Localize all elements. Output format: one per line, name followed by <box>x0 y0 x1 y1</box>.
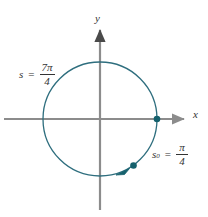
arc-reference-denominator: 4 <box>177 155 187 167</box>
y-axis-label: y <box>95 12 100 24</box>
unit-circle-figure: s = 7π 4 s 0 = π 4 y x <box>0 0 208 217</box>
arc-direction-arrowhead <box>116 169 130 176</box>
arc-total-equals: = <box>28 69 34 80</box>
arc-reference-numerator: π <box>177 142 187 154</box>
label-arc-reference: s 0 = π 4 <box>152 142 188 167</box>
x-axis-label: x <box>193 108 198 120</box>
figure-canvas <box>0 0 208 217</box>
arc-total-variable: s <box>19 69 23 80</box>
label-arc-total: s = 7π 4 <box>19 62 55 87</box>
arc-total-numerator: 7π <box>40 62 55 74</box>
point-terminal <box>130 162 137 169</box>
arc-reference-subscript: 0 <box>156 153 160 160</box>
arc-reference-fraction: π 4 <box>176 142 188 167</box>
arc-total-denominator: 4 <box>42 75 52 87</box>
arc-reference-equals: = <box>165 149 171 160</box>
point-initial <box>154 116 161 123</box>
arc-total-fraction: 7π 4 <box>40 62 55 87</box>
